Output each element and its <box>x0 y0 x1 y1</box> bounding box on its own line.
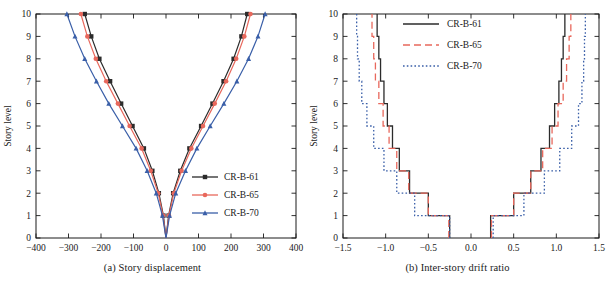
data-marker-circle <box>179 169 184 174</box>
y-tick-label: 0 <box>26 233 31 243</box>
x-tick-label: 400 <box>289 243 304 253</box>
x-axis-title: θ/% <box>463 259 478 260</box>
data-marker-circle <box>79 12 84 17</box>
data-marker-circle <box>234 57 239 62</box>
data-marker-triangle <box>234 79 239 84</box>
x-tick-label: 0.0 <box>465 243 477 253</box>
x-tick-label: 0.5 <box>508 243 520 253</box>
plot-frame <box>36 14 296 238</box>
y-tick-label: 5 <box>26 121 31 131</box>
x-tick-label: −1.0 <box>377 243 394 253</box>
x-tick-label: −0.5 <box>420 243 437 253</box>
series-line-CR-B-70 <box>166 14 265 238</box>
data-marker-circle <box>201 124 206 129</box>
y-tick-label: 2 <box>333 189 338 199</box>
caption-panel-a: (a) Story displacement <box>0 262 305 273</box>
y-tick-label: 9 <box>333 32 338 42</box>
data-marker-circle <box>224 79 229 84</box>
series-line-CR-B-70 <box>67 14 166 238</box>
data-marker-circle <box>127 124 132 129</box>
legend-label-CR-B-61: CR-B-61 <box>447 19 482 29</box>
x-axis-title: Δ/mm <box>154 259 178 260</box>
y-tick-label: 7 <box>333 77 338 87</box>
data-marker-circle <box>85 34 90 39</box>
data-marker-square <box>89 34 93 38</box>
chart-inter-story-drift: −1.5−1.0−0.50.00.51.01.5012345678910θ/%S… <box>305 0 611 260</box>
y-tick-label: 4 <box>26 144 31 154</box>
figure-container: −400−300−200−100010020030040001234567891… <box>0 0 611 291</box>
data-marker-circle <box>189 146 194 151</box>
y-tick-label: 10 <box>329 9 339 19</box>
data-marker-circle <box>203 193 208 198</box>
x-tick-label: −100 <box>124 243 144 253</box>
y-tick-label: 8 <box>333 54 338 64</box>
series-step-CR-B-61 <box>491 14 565 238</box>
caption-panel-b: (b) Inter-story drift ratio <box>305 262 610 273</box>
series-step-CR-B-65 <box>491 14 570 238</box>
y-axis-title: Story level <box>309 105 319 147</box>
y-tick-label: 4 <box>333 144 338 154</box>
x-tick-label: −200 <box>91 243 111 253</box>
y-tick-label: 3 <box>26 166 31 176</box>
y-tick-label: 1 <box>333 211 338 221</box>
data-marker-triangle <box>94 79 99 84</box>
data-marker-triangle <box>246 56 251 61</box>
y-tick-label: 6 <box>26 99 31 109</box>
data-marker-square <box>203 175 207 179</box>
data-marker-square <box>108 79 112 83</box>
data-marker-circle <box>212 101 217 106</box>
y-axis-title: Story level <box>3 105 13 147</box>
legend-label-CR-B-61: CR-B-61 <box>224 172 259 182</box>
legend-label-CR-B-70: CR-B-70 <box>447 61 482 71</box>
x-tick-label: 1.0 <box>550 243 562 253</box>
y-tick-label: 5 <box>333 121 338 131</box>
data-marker-square <box>83 12 87 16</box>
x-tick-label: −300 <box>59 243 79 253</box>
data-marker-triangle <box>82 56 87 61</box>
x-tick-label: 100 <box>191 243 206 253</box>
series-line-CR-B-61 <box>85 14 166 238</box>
data-marker-circle <box>104 79 109 84</box>
chart-story-displacement: −400−300−200−100010020030040001234567891… <box>0 0 305 260</box>
y-tick-label: 2 <box>26 189 31 199</box>
y-tick-label: 7 <box>26 77 31 87</box>
legend-label-CR-B-65: CR-B-65 <box>224 190 259 200</box>
y-tick-label: 3 <box>333 166 338 176</box>
y-tick-label: 10 <box>22 9 32 19</box>
panel-story-displacement: −400−300−200−100010020030040001234567891… <box>0 0 305 291</box>
x-tick-label: 0 <box>164 243 169 253</box>
x-tick-label: −1.5 <box>334 243 351 253</box>
panel-inter-story-drift: −1.5−1.0−0.50.00.51.01.5012345678910θ/%S… <box>305 0 610 291</box>
data-marker-circle <box>248 12 253 17</box>
y-tick-label: 8 <box>26 54 31 64</box>
x-tick-label: 1.5 <box>593 243 605 253</box>
data-marker-circle <box>94 57 99 62</box>
x-tick-label: −400 <box>26 243 46 253</box>
data-marker-triangle <box>73 34 78 39</box>
y-tick-label: 1 <box>26 211 31 221</box>
series-step-CR-B-70 <box>493 14 585 238</box>
x-tick-label: 200 <box>224 243 239 253</box>
y-tick-label: 6 <box>333 99 338 109</box>
x-tick-label: 300 <box>256 243 271 253</box>
data-marker-circle <box>242 34 247 39</box>
legend-label-CR-B-65: CR-B-65 <box>447 40 482 50</box>
data-marker-triangle <box>255 34 260 39</box>
legend-label-CR-B-70: CR-B-70 <box>224 208 259 218</box>
data-marker-circle <box>116 101 121 106</box>
data-marker-circle <box>139 146 144 151</box>
y-tick-label: 9 <box>26 32 31 42</box>
y-tick-label: 0 <box>333 233 338 243</box>
series-step-CR-B-65 <box>372 14 449 238</box>
series-step-CR-B-70 <box>357 14 450 238</box>
series-line-CR-B-61 <box>166 14 247 238</box>
series-step-CR-B-61 <box>377 14 450 238</box>
